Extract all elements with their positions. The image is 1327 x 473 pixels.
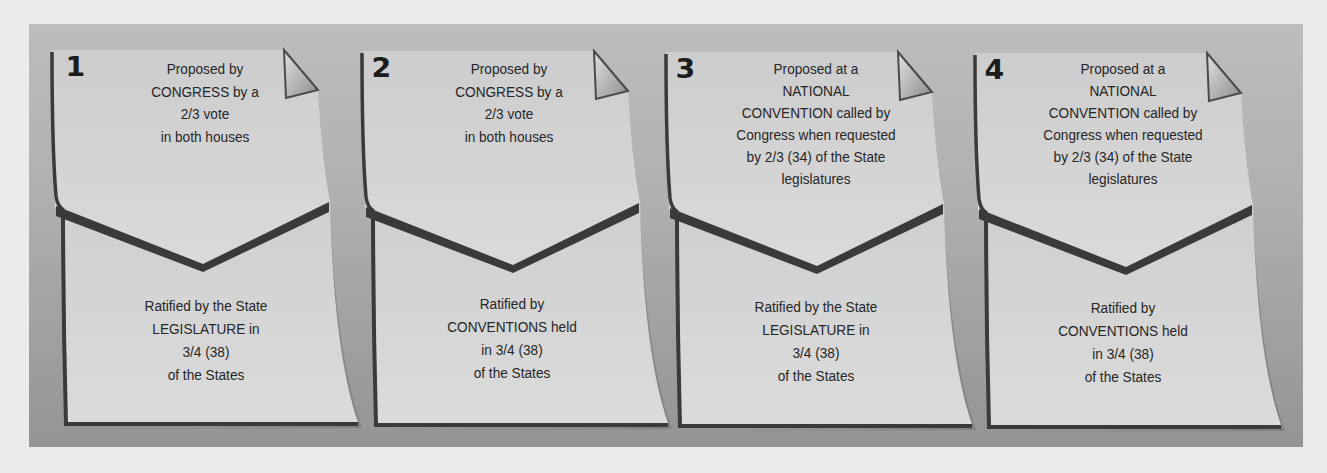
method-number: 1 [66,52,85,82]
proposal-text: Proposed by CONGRESS by a 2/3 vote in bo… [408,58,610,148]
amendment-methods-diagram: 1 Proposed by CONGRESS by a 2/3 vote in … [0,0,1327,473]
method-card-4: 4 Proposed at a NATIONAL CONVENTION call… [975,0,1285,473]
ratification-text: Ratified by the State LEGISLATURE in 3/4… [693,295,939,387]
method-number: 3 [676,54,695,84]
proposal-text: Proposed by CONGRESS by a 2/3 vote in bo… [104,58,306,148]
method-card-1: 1 Proposed by CONGRESS by a 2/3 vote in … [52,0,362,473]
method-number: 2 [372,53,391,83]
method-number: 4 [985,55,1004,85]
ratification-text: Ratified by CONVENTIONS held in 3/4 (38)… [389,292,635,384]
method-card-2: 2 Proposed by CONGRESS by a 2/3 vote in … [362,0,672,473]
proposal-text: Proposed at a NATIONAL CONVENTION called… [700,58,932,190]
method-card-3: 3 Proposed at a NATIONAL CONVENTION call… [666,0,976,473]
ratification-text: Ratified by the State LEGISLATURE in 3/4… [83,294,329,386]
proposal-text: Proposed at a NATIONAL CONVENTION called… [1007,58,1239,190]
ratification-text: Ratified by CONVENTIONS held in 3/4 (38)… [1000,296,1246,388]
